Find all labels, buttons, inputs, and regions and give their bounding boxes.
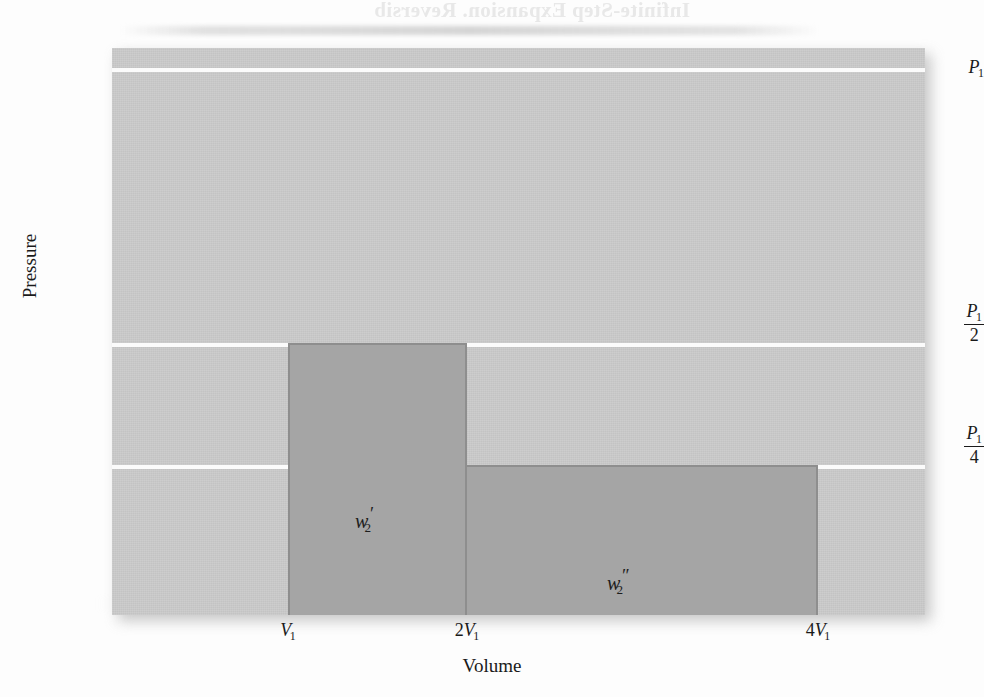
gridline-p1 [112,68,925,72]
work-label-w2-double-prime: w2″ [607,566,629,598]
p-subscript: 1 [976,310,982,324]
p-subscript: 1 [978,66,984,80]
w-double-prime: ″ [622,566,629,586]
tick-prefix: 2 [455,620,464,640]
v-subscript: 1 [473,629,479,643]
v-subscript: 1 [290,629,296,643]
pv-diagram-figure: Infinite-Step Expansion. Reversib w2′ w2… [0,0,984,697]
fraction-denominator: 4 [964,447,984,466]
plot-area: w2′ w2″ [112,48,925,615]
work-bar-w2-prime [288,343,467,615]
w-prime: ′ [370,504,374,524]
y-axis-title: Pressure [19,186,41,346]
v-subscript: 1 [824,629,830,643]
x-tick-v1: V1 [258,620,318,644]
gridline-p1-over-2 [112,343,925,347]
x-axis-title: Volume [0,655,984,677]
fraction-denominator: 2 [964,325,984,344]
x-tick-4v1: 4V1 [788,620,848,644]
x-tick-2v1: 2V1 [437,620,497,644]
tick-prefix: 4 [806,620,815,640]
p-subscript: 1 [976,432,982,446]
y-tick-p1-over-2: P12 [880,302,984,344]
bleed-through-smudge-top [120,26,820,35]
work-label-w2-prime: w2′ [355,504,373,536]
work-bar-w2-double-prime [467,465,818,615]
y-tick-p1-over-4: P14 [880,424,984,466]
